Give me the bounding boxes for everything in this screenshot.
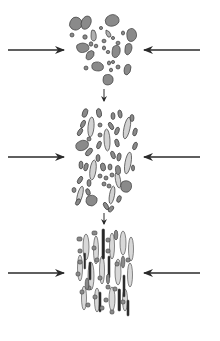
stage-2 (8, 108, 200, 213)
grain-cluster-loose (69, 15, 136, 86)
grain-cluster-partial (72, 108, 138, 213)
stage-1 (8, 15, 200, 86)
compaction-diagram (0, 0, 220, 341)
grain-cluster-compacted (76, 229, 134, 316)
stage-3 (8, 229, 200, 316)
